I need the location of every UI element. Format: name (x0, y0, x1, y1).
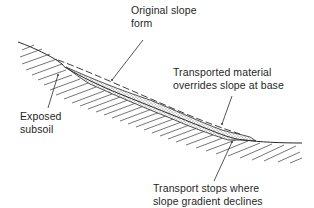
label-transport-stops-line1: Transport stops where (153, 182, 263, 195)
leader-exposed-subsoil (48, 75, 58, 108)
leader-original-slope (112, 40, 143, 80)
label-original-slope-line2: form (131, 17, 197, 30)
label-transport-stops-line2: slope gradient declines (153, 195, 263, 208)
label-original-slope: Original slope form (131, 4, 197, 29)
label-exposed-subsoil: Exposed subsoil (20, 110, 62, 135)
leader-transported-material (222, 96, 232, 124)
label-transported-material: Transported material overrides slope at … (173, 66, 284, 91)
slope-diagram (0, 0, 314, 208)
label-original-slope-line1: Original slope (131, 4, 197, 17)
label-transport-stops: Transport stops where slope gradient dec… (153, 182, 263, 207)
label-transported-material-line1: Transported material (173, 66, 284, 79)
label-exposed-subsoil-line1: Exposed (20, 110, 62, 123)
ground-hatching (20, 45, 302, 163)
leader-transport-stops (214, 142, 232, 181)
leader-lines (48, 40, 232, 181)
label-transported-material-line2: overrides slope at base (173, 79, 284, 92)
label-exposed-subsoil-line2: subsoil (20, 123, 62, 136)
